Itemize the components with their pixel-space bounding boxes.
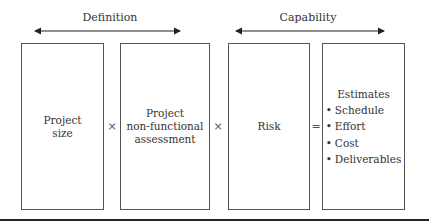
- box-text: non-functional: [127, 120, 204, 133]
- multiply-operator: ×: [211, 120, 225, 133]
- estimates-list: Schedule Effort Cost Deliverables: [326, 102, 402, 168]
- risk-box: Risk: [228, 43, 310, 210]
- box-text: Project: [146, 107, 184, 120]
- estimates-title: Estimates: [326, 86, 402, 102]
- definition-label: Definition: [72, 11, 148, 24]
- project-size-box: Project size: [21, 43, 104, 210]
- box-text: Project: [44, 114, 82, 127]
- capability-label: Capability: [270, 11, 346, 24]
- non-functional-assessment-box: Project non-functional assessment: [120, 43, 210, 210]
- multiply-operator: ×: [105, 120, 119, 133]
- group-arrows: [0, 0, 429, 40]
- list-item: Effort: [326, 118, 402, 135]
- box-text: size: [52, 127, 73, 140]
- list-item: Cost: [326, 135, 402, 152]
- list-item: Deliverables: [326, 151, 402, 168]
- box-text: Risk: [257, 120, 280, 133]
- box-text: assessment: [134, 133, 195, 146]
- equals-operator: =: [309, 120, 323, 133]
- estimates-box: Estimates Schedule Effort Cost Deliverab…: [322, 43, 405, 210]
- list-item: Schedule: [326, 102, 402, 119]
- bottom-rule: [0, 219, 429, 221]
